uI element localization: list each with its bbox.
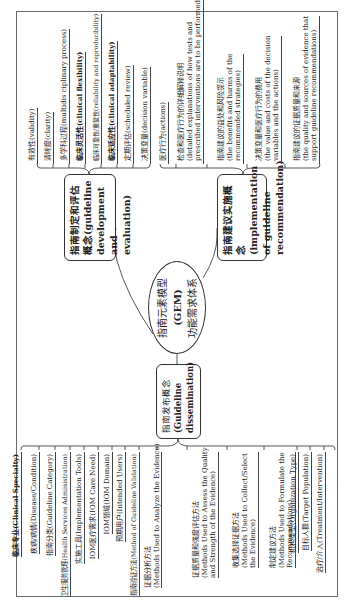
leaf-text: prescribed interventions are to be perfo… xyxy=(194,0,203,161)
leaf-methods-analyze-evidence: 证据分析方法 (Methods Used to Analyze the Evid… xyxy=(144,452,162,588)
leaf-text: 定期评估(scheduled review) xyxy=(124,65,133,161)
branch-node-dissemination: 指南发布概念 (Guideline dissemination) xyxy=(156,364,201,439)
leaf-text: (Methods Used to Formulate the xyxy=(278,454,287,568)
leaf-iom-care-need: IOM医疗需求(IOM Care Need) xyxy=(89,452,99,559)
leaf-health-services-administration: 卫生服务管理(Health Services Administration) xyxy=(61,452,71,597)
leaf-text: 预期用户(Intended Users) xyxy=(116,454,125,542)
leaf-clinical-specialty: 临床专业(Clinical Specialty) xyxy=(12,452,22,557)
leaf-treatment-intervention: 治疗/介入(Treatment/Intervention) xyxy=(316,452,326,573)
leaf-text: support guideline recommendations) xyxy=(310,16,319,161)
leaf-text: 决策变量和医疗行为的费用 xyxy=(255,36,264,161)
center-line-2: (GEM) xyxy=(170,289,185,326)
development-label-1: 指南制定和评估 xyxy=(68,180,81,255)
leaf-implementation-tools: 实施工具(Implementation Tools) xyxy=(75,452,85,564)
leaf-text: (detailed explanations of how tests and xyxy=(186,0,195,161)
leaf-quality-sources-evidence: 指南建议的证据质量和来源 (the quality and sources of… xyxy=(293,16,320,164)
leaf-text: and Strength of the Evidence) xyxy=(209,454,218,578)
leaf-text: (Methods Used to Collect/Select xyxy=(241,454,250,568)
leaf-text: (Methods Used to Assess the Quality xyxy=(201,454,210,578)
center-node-gem: 指南元素模型 (GEM) 功能需求体系 xyxy=(148,261,206,354)
leaf-text: 制定建议方法 xyxy=(269,454,278,568)
branch-node-implementation: 指南建议实施概念 (implementation of guideline re… xyxy=(217,174,267,261)
leaf-clarity: 清晰度(clarity) xyxy=(44,112,54,164)
dissemination-label-3: dissemination) xyxy=(184,370,196,433)
leaf-text: 证据分析方法 xyxy=(144,454,153,588)
leaf-value-costs: 决策变量和医疗行为的费用 (the value and costs of the… xyxy=(255,36,282,164)
leaf-text: 医疗行为(actions) xyxy=(159,102,168,161)
leaf-text: 收集选择证据方法 xyxy=(232,454,241,568)
leaf-text: 疾病/病情(Disease/Condition) xyxy=(30,454,39,554)
leaf-text: 指南分类(Guideline Category) xyxy=(46,454,55,556)
leaf-iom-domain: IOM领域(IOM Domain) xyxy=(103,452,113,534)
leaf-text: 卫生服务管理(Health Services Administration) xyxy=(61,454,70,597)
leaf-text: variables and the actions) xyxy=(272,36,281,161)
development-label-3: development and xyxy=(94,180,120,255)
leaf-text: (Methods Used to Analyze the Evidence) xyxy=(153,454,162,588)
leaf-detailed-explanations: 检查和医疗行为的详细解释说明 (detailed explanations of… xyxy=(177,0,204,164)
leaf-methods-collect-select: 收集选择证据方法 (Methods Used to Collect/Select… xyxy=(232,452,259,568)
leaf-decision-variable: 决策变量(decision variable) xyxy=(141,67,151,164)
leaf-multidisciplinary-process: 多学科过程(multidis ciplinary process) xyxy=(60,29,70,164)
dissemination-label-1: 指南发布概念 xyxy=(160,370,172,433)
implementation-label-1: 指南建议实施概念 xyxy=(221,180,247,255)
leaf-target-population: 目标人群(Target Population) xyxy=(302,452,312,551)
dissemination-label-2: (Guideline xyxy=(172,370,184,433)
leaf-text: (the value and costs of the decision xyxy=(264,36,273,161)
leaf-text: 临床灵活性(clinical flexibility) xyxy=(76,52,85,161)
leaf-clinical-flexibility: 临床灵活性(clinical flexibility) xyxy=(76,52,86,164)
leaf-text: 指南建议的益处和风险提示 xyxy=(217,54,226,161)
branch-node-development: 指南制定和评估 概念(guideline development and eva… xyxy=(64,174,116,261)
leaf-reliability-reproducibility: 临床可靠性/重复性(reliability and reproducibilit… xyxy=(92,14,102,164)
leaf-text: 指南建议的证据质量和来源 xyxy=(293,16,302,161)
gem-diagram-frame: 指南元素模型 (GEM) 功能需求体系 指南发布概念 (Guideline di… xyxy=(16,11,338,597)
leaf-scheduled-review: 定期评估(scheduled review) xyxy=(124,65,134,164)
implementation-label-4: recommendation) xyxy=(273,180,286,255)
leaf-text: 决策变量(decision variable) xyxy=(141,67,150,161)
leaf-text: 机构类型(Organization Type) xyxy=(289,454,298,553)
leaf-text: 有效性(validity) xyxy=(28,108,37,161)
leaf-text: (the quality and sources of evidence tha… xyxy=(302,16,311,161)
connector-center-implementation xyxy=(203,228,217,278)
leaf-method-of-guideline-validation: 指南验证方法(Method of Guideline Validation) xyxy=(130,452,140,596)
leaf-text: IOM医疗需求(IOM Care Need) xyxy=(89,454,98,559)
leaf-text: 治疗/介入(Treatment/Intervention) xyxy=(316,454,325,573)
leaf-text: the Evidence) xyxy=(249,454,258,568)
leaf-text: 清晰度(clarity) xyxy=(44,112,53,161)
leaf-guideline-category: 指南分类(Guideline Category) xyxy=(46,452,56,556)
leaf-text: 证据质量和强度评估方法 xyxy=(192,454,201,578)
leaf-intended-users: 预期用户(Intended Users) xyxy=(116,452,126,542)
leaf-text: recommended strategies) xyxy=(234,54,243,161)
leaf-clinical-adaptability: 临床适应性(clinical adaptability) xyxy=(108,41,118,164)
leaf-disease-condition: 疾病/病情(Disease/Condition) xyxy=(30,452,40,554)
development-label-4: evaluation) xyxy=(120,180,133,255)
leaf-organization-type: 机构类型(Organization Type) xyxy=(289,452,299,553)
leaf-validity: 有效性(validity) xyxy=(28,108,38,164)
leaf-benefits-harms: 指南建议的益处和风险提示 (the benefits and harms of … xyxy=(217,54,244,164)
leaf-methods-assess-quality: 证据质量和强度评估方法 (Methods Used to Assess the … xyxy=(192,452,219,578)
leaf-text: IOM领域(IOM Domain) xyxy=(103,454,112,534)
leaf-text: 实施工具(Implementation Tools) xyxy=(75,454,84,564)
center-line-1: 指南元素模型 xyxy=(155,278,170,338)
development-label-2: 概念(guideline xyxy=(81,180,94,255)
center-line-3: 功能需求体系 xyxy=(185,278,200,338)
leaf-text: 临床适应性(clinical adaptability) xyxy=(108,41,117,161)
implementation-label-2: (implementation xyxy=(247,180,260,255)
leaf-text: 临床专业(Clinical Specialty) xyxy=(12,454,21,557)
implementation-label-3: of guideline xyxy=(260,180,273,255)
leaf-text: (the benefits and harms of the xyxy=(226,54,235,161)
leaf-text: 检查和医疗行为的详细解释说明 xyxy=(177,0,186,161)
leaf-actions: 医疗行为(actions) xyxy=(159,102,169,164)
leaf-text: 指南验证方法(Method of Guideline Validation) xyxy=(130,454,139,596)
leaf-text: 多学科过程(multidis ciplinary process) xyxy=(60,29,69,161)
leaf-text: 临床可靠性/重复性(reliability and reproducibilit… xyxy=(92,14,101,161)
leaf-text: 目标人群(Target Population) xyxy=(302,454,311,551)
